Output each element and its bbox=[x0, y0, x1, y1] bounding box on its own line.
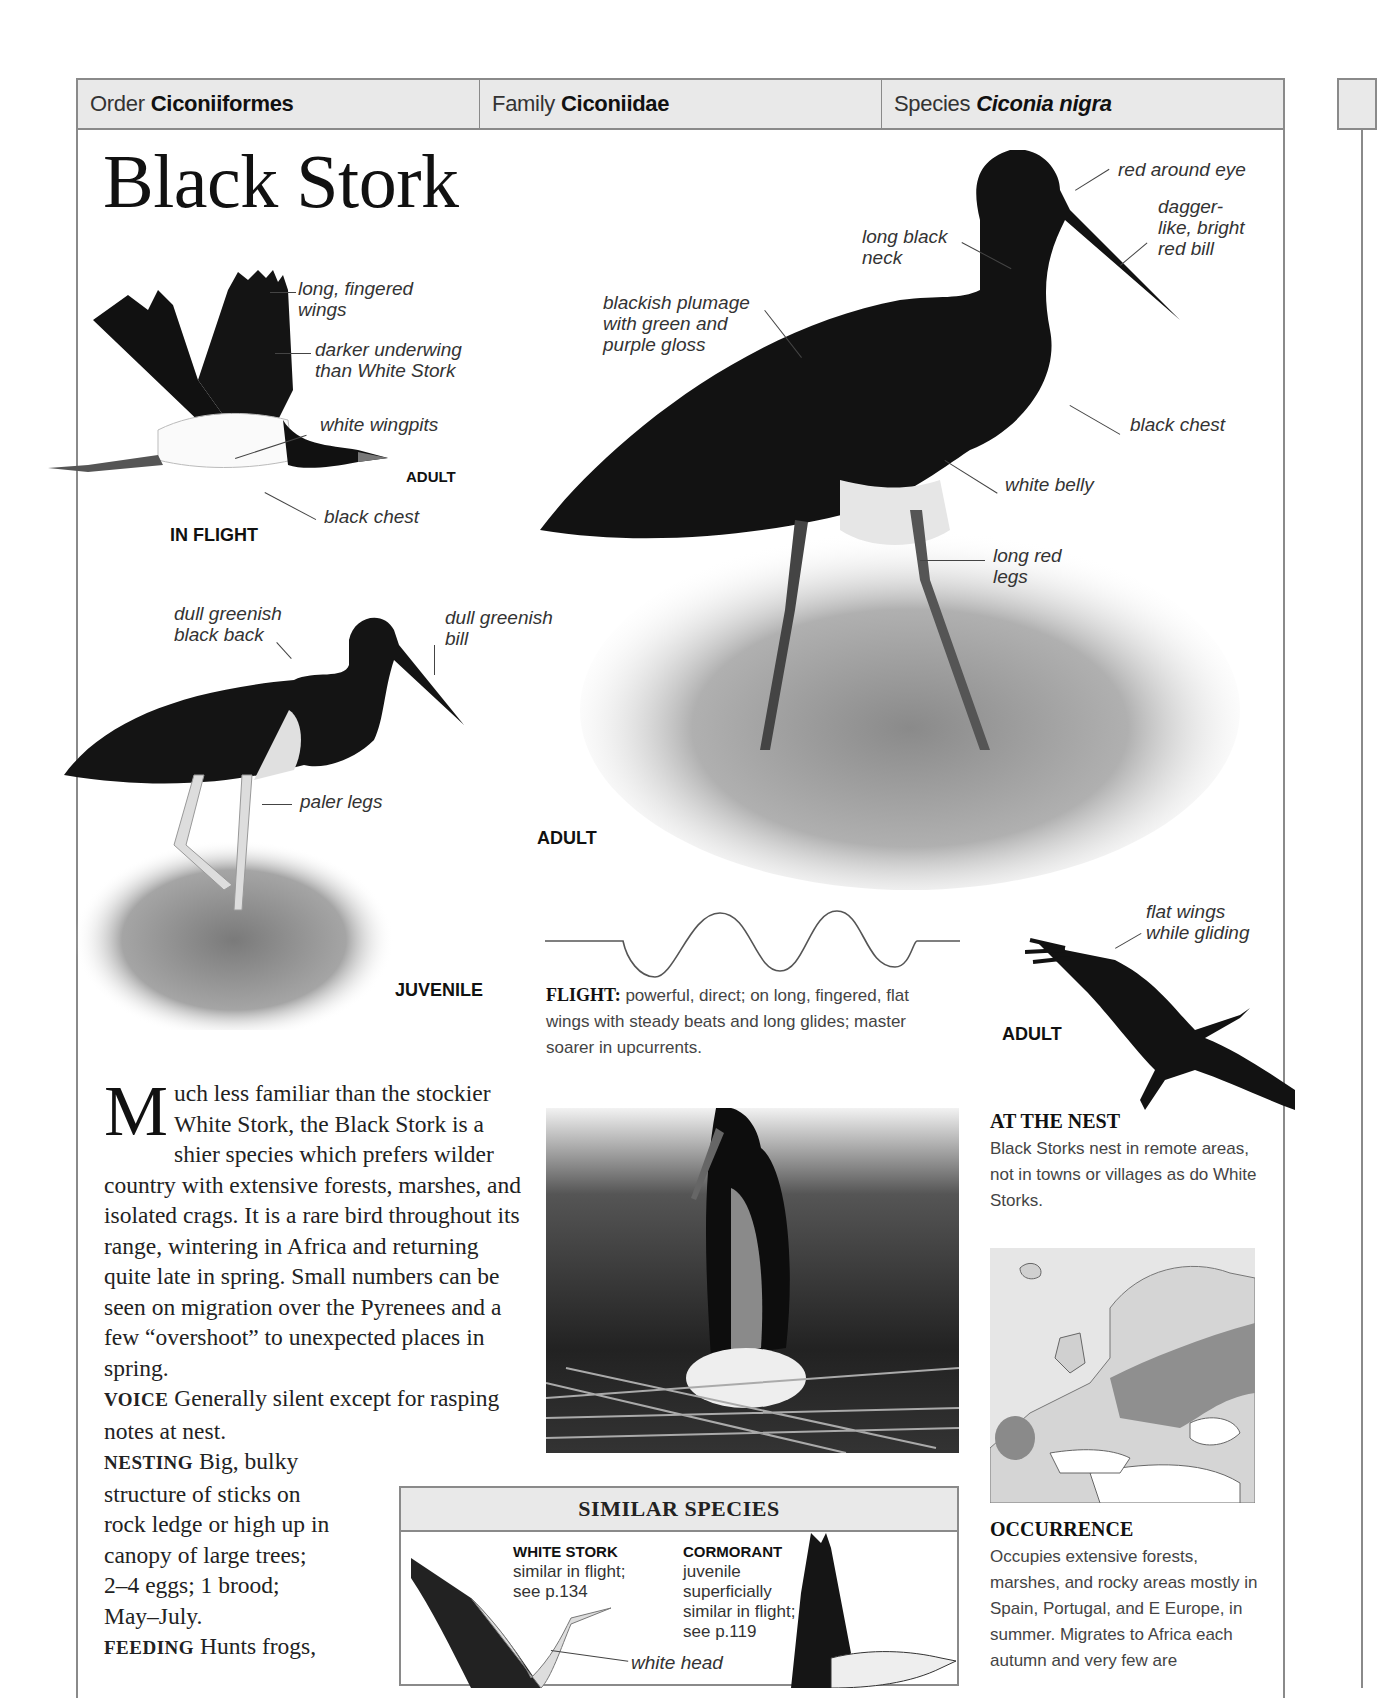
dropcap: M bbox=[104, 1082, 168, 1140]
nest-photo bbox=[546, 1108, 959, 1453]
feeding-text: Hunts frogs, bbox=[200, 1633, 316, 1659]
species-label: Species bbox=[894, 91, 970, 117]
at-the-nest-heading: AT THE NEST bbox=[990, 1110, 1120, 1133]
europe-range-map bbox=[990, 1248, 1255, 1503]
occurrence-text: Occupies extensive forests, marshes, and… bbox=[990, 1544, 1260, 1674]
order-cell: Order Ciconiiformes bbox=[78, 80, 480, 128]
leader-line bbox=[270, 292, 296, 293]
family-cell: Family Ciconiidae bbox=[480, 80, 882, 128]
similar-item-cormorant[interactable]: CORMORANT juvenile superficially similar… bbox=[683, 1542, 808, 1642]
label-fingered-wings: long, fingered wings bbox=[298, 278, 413, 320]
occurrence-heading: OCCURRENCE bbox=[990, 1518, 1133, 1541]
label-dagger-bill: dagger- like, bright red bill bbox=[1158, 196, 1245, 259]
label-white-head: white head bbox=[631, 1652, 723, 1673]
label-flat-wings: flat wings while gliding bbox=[1146, 901, 1250, 943]
family-label: Family bbox=[492, 91, 555, 117]
species-value: Ciconia nigra bbox=[976, 91, 1111, 117]
juvenile-stork-illustration bbox=[64, 610, 484, 1030]
label-blackish-plumage: blackish plumage with green and purple g… bbox=[603, 292, 750, 355]
label-black-chest: black chest bbox=[1130, 414, 1225, 435]
species-cell: Species Ciconia nigra bbox=[882, 80, 1283, 128]
label-red-around-eye: red around eye bbox=[1118, 159, 1246, 180]
family-value: Ciconiidae bbox=[561, 91, 669, 117]
caption-adult-gliding: ADULT bbox=[1002, 1024, 1062, 1045]
flight-pattern-wave-icon bbox=[545, 905, 960, 980]
caption-adult-flight: ADULT bbox=[406, 468, 456, 485]
flight-description: FLIGHT: powerful, direct; on long, finge… bbox=[546, 982, 946, 1061]
leader-line bbox=[262, 804, 292, 805]
similar-species-box: SIMILAR SPECIES WHITE STORK similar in f… bbox=[399, 1486, 959, 1686]
page-title: Black Stork bbox=[103, 138, 458, 225]
label-long-red-legs: long red legs bbox=[993, 545, 1062, 587]
white-stork-name: WHITE STORK bbox=[513, 1542, 643, 1562]
leader-line bbox=[275, 353, 311, 354]
order-value: Ciconiiformes bbox=[151, 91, 294, 117]
flight-heading: FLIGHT: bbox=[546, 985, 621, 1005]
label-dull-greenish-bill: dull greenish bill bbox=[445, 607, 553, 649]
voice-label: VOICE bbox=[104, 1389, 168, 1410]
gliding-stork-illustration bbox=[1025, 920, 1305, 1120]
nesting-label: NESTING bbox=[104, 1452, 193, 1473]
taxonomy-header: Order Ciconiiformes Family Ciconiidae Sp… bbox=[76, 78, 1285, 130]
caption-in-flight: IN FLIGHT bbox=[170, 525, 258, 546]
label-white-belly: white belly bbox=[1005, 474, 1094, 495]
order-label: Order bbox=[90, 91, 145, 117]
similar-item-white-stork[interactable]: WHITE STORK similar in flight; see p.134 bbox=[513, 1542, 643, 1602]
at-the-nest-text: Black Storks nest in remote areas, not i… bbox=[990, 1136, 1260, 1214]
caption-adult-standing: ADULT bbox=[537, 828, 597, 849]
white-stork-text: similar in flight; see p.134 bbox=[513, 1562, 643, 1602]
label-white-wingpits: white wingpits bbox=[320, 414, 438, 435]
similar-species-heading: SIMILAR SPECIES bbox=[401, 1488, 957, 1532]
label-black-chest-flight: black chest bbox=[324, 506, 419, 527]
range-map bbox=[990, 1248, 1255, 1503]
label-dull-greenish-back: dull greenish black back bbox=[174, 603, 282, 645]
label-paler-legs: paler legs bbox=[300, 791, 382, 812]
leader-line bbox=[434, 645, 435, 675]
cormorant-illustration bbox=[791, 1533, 961, 1688]
cormorant-name: CORMORANT bbox=[683, 1542, 808, 1562]
label-long-black-neck: long black neck bbox=[862, 226, 948, 268]
cormorant-text: juvenile superficially similar in flight… bbox=[683, 1562, 808, 1642]
feeding-label: FEEDING bbox=[104, 1637, 194, 1658]
next-page-header bbox=[1337, 78, 1377, 130]
label-darker-underwing: darker underwing than White Stork bbox=[315, 339, 462, 381]
leader-line bbox=[920, 560, 985, 561]
nesting-text: Big, bulky structure of sticks on rock l… bbox=[104, 1448, 329, 1629]
next-page-border bbox=[1361, 128, 1363, 1688]
caption-juvenile: JUVENILE bbox=[395, 980, 483, 1001]
